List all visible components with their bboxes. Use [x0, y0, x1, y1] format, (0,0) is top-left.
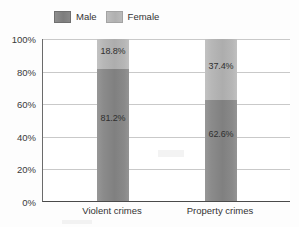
bar-label-property-male: 62.6% — [208, 129, 233, 139]
gridline-20 — [43, 169, 290, 170]
y-tick-40: 40% — [17, 131, 36, 142]
y-tick-20: 20% — [17, 164, 36, 175]
bar-violent-crimes[interactable]: 18.8% 81.2% — [97, 39, 129, 201]
gridline-80 — [43, 72, 290, 73]
stacked-bar-chart: Male Female 100% 80% 60% 40% 20% 0% 18.8… — [0, 0, 299, 227]
gridline-60 — [43, 104, 290, 105]
legend-entry-female[interactable]: Female — [106, 11, 160, 23]
x-tick-violent-crimes: Violent crimes — [82, 205, 142, 216]
chart-legend: Male Female — [54, 10, 159, 23]
gridline-100 — [43, 39, 290, 40]
y-axis-labels: 100% 80% 60% 40% 20% 0% — [0, 39, 38, 202]
bar-label-violent-male: 81.2% — [100, 113, 125, 123]
bar-label-violent-female: 18.8% — [100, 46, 125, 56]
plot-area: 18.8% 81.2% 37.4% 62.6% — [42, 39, 290, 202]
male-swatch-icon — [54, 11, 71, 23]
bar-property-crimes[interactable]: 37.4% 62.6% — [205, 39, 237, 201]
bar-segment-violent-female[interactable]: 18.8% — [97, 39, 129, 69]
y-tick-0: 0% — [22, 197, 36, 208]
legend-label-female: Female — [128, 11, 160, 23]
x-tick-property-crimes: Property crimes — [187, 205, 254, 216]
y-tick-100: 100% — [12, 34, 36, 45]
bar-segment-property-female[interactable]: 37.4% — [205, 39, 237, 100]
bar-segment-violent-male[interactable]: 81.2% — [97, 69, 129, 201]
female-swatch-icon — [106, 11, 123, 23]
legend-entry-male[interactable]: Male — [54, 11, 97, 23]
legend-label-male: Male — [76, 11, 97, 23]
x-axis-labels: Violent crimes Property crimes — [42, 205, 290, 221]
gridline-40 — [43, 137, 290, 138]
y-tick-60: 60% — [17, 99, 36, 110]
bar-label-property-female: 37.4% — [208, 61, 233, 71]
bar-segment-property-male[interactable]: 62.6% — [205, 100, 237, 201]
y-tick-80: 80% — [17, 66, 36, 77]
